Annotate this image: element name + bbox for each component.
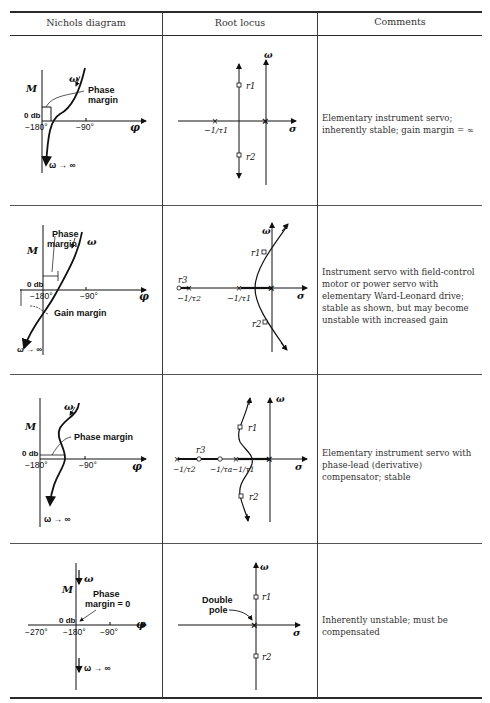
svg-text:r1: r1 [246, 81, 255, 91]
svg-text:−1/τa: −1/τa [210, 465, 232, 474]
svg-text:pole: pole [209, 605, 228, 615]
svg-text:−90°: −90° [100, 627, 118, 637]
svg-text:φ: φ [132, 460, 142, 473]
svg-text:φ: φ [136, 618, 146, 631]
svg-text:r3: r3 [178, 275, 187, 285]
svg-text:margin: margin [88, 95, 118, 105]
svg-text:σ: σ [295, 461, 303, 472]
svg-text:−270°: −270° [25, 627, 48, 637]
svg-text:σ: σ [289, 123, 297, 134]
svg-text:M: M [24, 421, 37, 432]
svg-text:×: × [236, 283, 242, 294]
svg-text:×: × [266, 453, 272, 465]
nichols-diagram-row-1: ω M Phase margin 0 db −180° −90° φ ω → ∞ [24, 68, 146, 173]
svg-text:ω: ω [260, 562, 269, 572]
svg-text:ω → ∞: ω → ∞ [84, 663, 110, 673]
svg-text:0 db: 0 db [59, 616, 76, 625]
svg-text:Phase: Phase [52, 229, 79, 239]
svg-text:φ: φ [130, 121, 140, 134]
root-locus-row-4: × r1 r2 ω σ Double pole [178, 562, 301, 690]
svg-text:0 db: 0 db [22, 449, 39, 458]
root-locus-row-3: × × × r1 r2 r3 ω σ −1/τ2 −1/τa −1/τ1 [173, 394, 307, 522]
svg-text:M: M [26, 245, 39, 256]
svg-text:ω → ∞: ω → ∞ [17, 345, 42, 354]
svg-text:ω → ∞: ω → ∞ [49, 160, 75, 170]
svg-text:r3: r3 [196, 445, 205, 455]
figures-canvas: ω M Phase margin 0 db −180° −90° φ ω → ∞… [0, 0, 490, 703]
svg-text:r1: r1 [262, 592, 271, 602]
svg-text:−1/τ2: −1/τ2 [173, 465, 196, 474]
root-locus-row-1: × × r1 r2 ω σ −1/τ1 [178, 50, 297, 185]
svg-text:ω: ω [64, 401, 74, 412]
nichols-diagram-row-3: ω M Phase margin 0 db −180° −90° φ ω → ∞ [22, 398, 146, 527]
svg-text:−180°: −180° [63, 627, 86, 637]
svg-text:σ: σ [297, 290, 305, 301]
svg-text:−90°: −90° [76, 122, 94, 132]
svg-text:×: × [262, 115, 268, 127]
svg-text:−1/τ1: −1/τ1 [227, 294, 251, 303]
svg-text:Double: Double [202, 595, 233, 605]
root-locus-row-2: × × × r1 r2 r3 ω σ −1/τ2 −1/τ1 [177, 223, 307, 352]
svg-text:ω: ω [84, 573, 94, 584]
svg-text:σ: σ [293, 627, 301, 638]
svg-text:r2: r2 [246, 152, 255, 162]
svg-text:0 db: 0 db [27, 280, 44, 289]
svg-text:−180°: −180° [30, 291, 53, 301]
svg-text:−90°: −90° [80, 291, 98, 301]
svg-text:r2: r2 [262, 652, 271, 662]
svg-text:−1/τ1: −1/τ1 [232, 465, 255, 474]
svg-text:ω: ω [69, 73, 79, 84]
svg-text:Phase: Phase [88, 85, 115, 95]
svg-text:r2: r2 [249, 492, 258, 502]
svg-text:×: × [174, 454, 180, 465]
svg-text:M: M [25, 83, 38, 94]
svg-text:ω: ω [264, 50, 273, 60]
svg-text:ω → ∞: ω → ∞ [44, 514, 70, 524]
svg-text:0 db: 0 db [24, 111, 41, 120]
svg-text:−1/τ2: −1/τ2 [177, 294, 201, 303]
svg-text:margin: margin [47, 239, 77, 249]
svg-text:margin = 0: margin = 0 [85, 599, 130, 609]
svg-text:φ: φ [139, 290, 149, 303]
nichols-diagram-row-2: Phase margin ω M 0 db −180° −90° φ Gain … [17, 225, 149, 355]
svg-text:ω: ω [262, 226, 271, 236]
svg-text:ω: ω [276, 394, 285, 404]
svg-text:r1: r1 [251, 248, 260, 258]
svg-text:ω: ω [87, 236, 97, 247]
svg-text:Gain margin: Gain margin [54, 308, 107, 318]
svg-text:r1: r1 [248, 423, 257, 433]
nichols-diagram-row-4: ω M Phase margin = 0 0 db −270° −180° −9… [25, 563, 146, 690]
svg-text:M: M [61, 584, 74, 595]
svg-text:−1/τ1: −1/τ1 [204, 126, 228, 135]
svg-text:Phase margin: Phase margin [74, 432, 133, 442]
svg-text:Phase: Phase [93, 589, 120, 599]
svg-text:×: × [251, 619, 257, 631]
svg-text:r2: r2 [252, 319, 261, 329]
svg-text:−180°: −180° [25, 122, 48, 132]
svg-text:−180°: −180° [25, 460, 48, 470]
svg-text:−90°: −90° [79, 460, 97, 470]
svg-text:×: × [233, 454, 239, 465]
svg-text:×: × [268, 282, 274, 294]
